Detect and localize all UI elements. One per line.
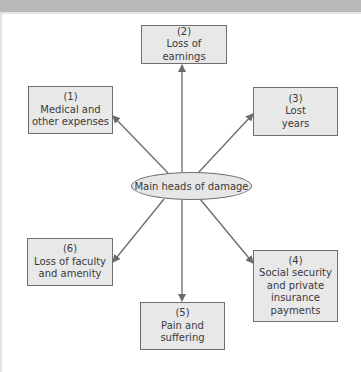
node-medical-expenses: (1) Medical and other expenses (28, 86, 113, 134)
center-label: Main heads of damage (134, 181, 248, 192)
arrow-to-loss-of-faculty (113, 199, 164, 262)
node-number: (1) (63, 91, 77, 104)
node-pain-and-suffering: (5) Pain and suffering (140, 302, 225, 350)
node-label-line: other expenses (32, 116, 109, 129)
node-number: (3) (288, 93, 302, 106)
node-label-line: insurance (271, 292, 320, 305)
node-label-line: Loss of faculty (34, 256, 106, 269)
node-number: (5) (175, 307, 189, 320)
node-number: (4) (288, 255, 302, 268)
node-label-line: and private (267, 280, 324, 293)
node-label-line: Pain and (161, 320, 204, 333)
node-number: (6) (63, 243, 77, 256)
arrow-to-medical-expenses (113, 116, 168, 173)
node-lost-years: (3) Lost years (253, 87, 338, 136)
node-number: (2) (177, 26, 191, 39)
node-loss-of-faculty: (6) Loss of faculty and amenity (27, 238, 113, 286)
node-loss-of-earnings: (2) Loss of earnings (141, 25, 227, 64)
node-label-line: Medical and (40, 104, 100, 117)
center-node-main-heads-of-damage: Main heads of damage (131, 172, 252, 200)
node-label-line: Social security (259, 267, 332, 280)
node-label-line: Loss of (167, 38, 202, 51)
arrow-to-lost-years (198, 114, 253, 173)
node-social-security: (4) Social security and private insuranc… (253, 250, 338, 322)
arrow-to-social-security (200, 199, 253, 263)
node-label-line: suffering (160, 332, 204, 345)
node-label-line: earnings (162, 51, 205, 64)
node-label-line: Lost (285, 105, 306, 118)
node-label-line: payments (271, 305, 321, 318)
node-label-line: years (282, 118, 310, 131)
node-label-line: and amenity (39, 268, 102, 281)
